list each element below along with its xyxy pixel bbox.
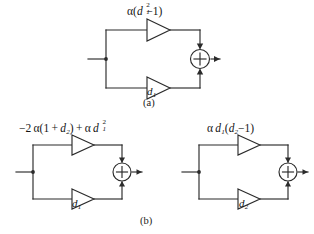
arrowhead-output-br <box>303 169 309 174</box>
gain-label-bottom-b-left: d1 <box>72 198 81 211</box>
d-subscript-bottom-br: 2 <box>245 203 248 210</box>
arrowhead-top-in-bl <box>119 158 125 164</box>
arrowhead-bottom-in-bl <box>119 181 125 187</box>
caption-panel-b: (b) <box>140 215 152 226</box>
d-var-bottom-a: d <box>147 85 153 97</box>
plus-inner-bl: + <box>52 122 59 134</box>
diagram-b-left-svg <box>16 142 142 202</box>
arrowhead-output-a <box>214 56 220 62</box>
gain-label-top-b-left: −2 α(1 + d2) + α d221 <box>19 123 102 136</box>
junction-dot-a <box>104 57 108 61</box>
plus-outer-bl: + <box>76 122 83 134</box>
figure-canvas: α(d221−1) d1 (a) <box>0 0 314 234</box>
arrowhead-bottom-in-br <box>285 181 291 187</box>
minus-two-bl: −2 <box>19 122 31 134</box>
gain-block-top-br <box>238 135 260 155</box>
diagram-a-svg <box>88 26 220 92</box>
junction-dot-br <box>197 170 201 174</box>
caption-panel-a: (a) <box>143 97 155 108</box>
junction-dot-bl <box>31 170 35 174</box>
d-var-bottom-bl: d <box>72 197 78 209</box>
d-var-bottom-br: d <box>239 197 245 209</box>
minus-one-br: −1 <box>238 122 250 134</box>
diagram-b-right-svg <box>182 142 308 202</box>
subscript-1-a: 1 <box>146 9 150 16</box>
block-diagram-a <box>88 26 220 92</box>
paren-close-br: ) <box>250 122 254 134</box>
arrowhead-bottom-in-a <box>197 69 203 75</box>
subscript-1-bl: 1 <box>102 126 106 133</box>
gain-label-bottom-b-right: d2 <box>239 198 248 211</box>
arrowhead-top-in-br <box>285 158 291 164</box>
gain-label-top-a: α(d221−1) <box>127 6 162 18</box>
d2-var-br: d <box>229 122 235 134</box>
d-subscript-bottom-bl: 1 <box>78 203 81 210</box>
d1-squared-a: 221 <box>143 6 147 18</box>
paren-close-bl: ) <box>70 122 74 134</box>
gain-block-top-a <box>147 19 170 41</box>
d1-squared-bl: 221 <box>99 123 103 135</box>
paren-close-a: ) <box>158 5 162 17</box>
arrowhead-top-in-a <box>197 44 203 50</box>
one-bl: 1 <box>43 122 49 134</box>
gain-label-top-b-right: α d1(d2−1) <box>207 123 254 136</box>
block-diagram-b-right <box>182 142 308 202</box>
alpha-symbol-br: α <box>207 122 213 134</box>
arrowhead-output-bl <box>137 169 143 174</box>
block-diagram-b-left <box>16 142 142 202</box>
alpha-symbol-2-bl: α <box>85 122 91 134</box>
gain-block-top-bl <box>72 135 94 155</box>
